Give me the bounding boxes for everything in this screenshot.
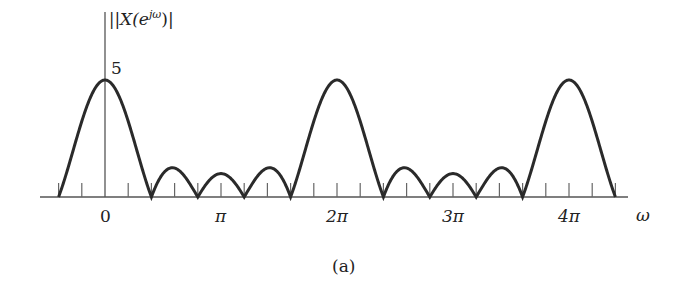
x-tick-2pi: 2π <box>326 206 348 226</box>
y-label-sup: jω <box>149 8 161 21</box>
magnitude-plot <box>0 0 683 293</box>
y-label-text: |X(e <box>114 9 149 29</box>
minor-ticks <box>59 183 616 197</box>
x-tick-pi: π <box>215 206 226 226</box>
x-axis-label-omega: ω <box>636 205 650 225</box>
x-tick-3pi: 3π <box>442 206 464 226</box>
figure: ||X(ejω)| 5 0 π 2π 3π 4π ω (a) <box>0 0 683 293</box>
figure-caption: (a) <box>332 256 355 276</box>
y-label-end: )| <box>161 9 173 29</box>
magnitude-curve <box>59 80 616 197</box>
x-tick-4pi: 4π <box>558 206 580 226</box>
y-tick-5: 5 <box>111 58 122 78</box>
y-axis-label: ||X(ejω)| <box>109 8 174 29</box>
x-tick-0: 0 <box>100 206 111 226</box>
